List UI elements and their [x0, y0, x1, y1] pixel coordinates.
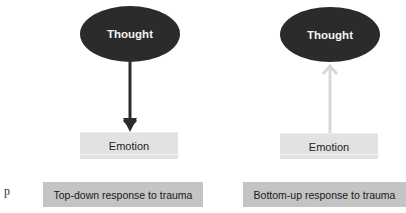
arrow-up-icon [320, 62, 340, 134]
bottom-up-panel: Thought Emotion Bottom-up response to tr… [203, 0, 406, 213]
emotion-node: Emotion [80, 132, 178, 159]
top-down-caption: Top-down response to trauma [43, 182, 203, 207]
arrow-down-icon [120, 60, 140, 134]
top-down-panel: Thought Emotion Top-down response to tra… [0, 0, 203, 213]
thought-node: Thought [280, 7, 380, 62]
emotion-node: Emotion [280, 133, 378, 159]
thought-node: Thought [80, 6, 180, 62]
bottom-up-caption: Bottom-up response to trauma [243, 182, 406, 207]
